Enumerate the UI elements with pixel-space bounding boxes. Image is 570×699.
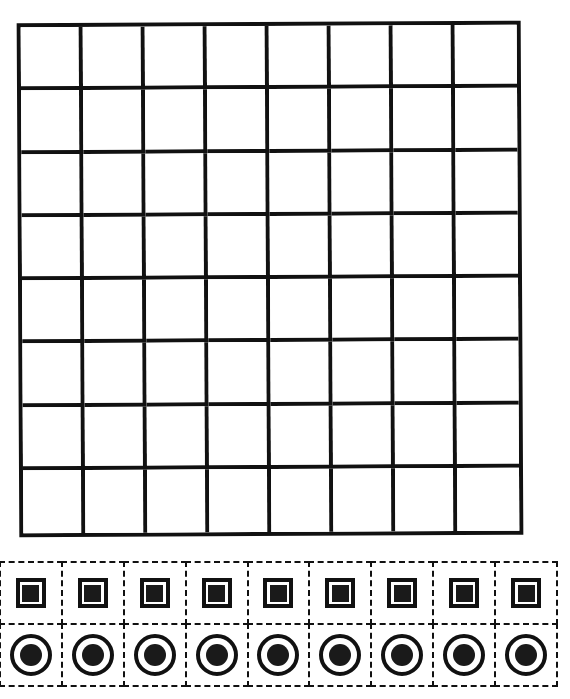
board-cell-r1-c3[interactable] [145, 26, 207, 90]
square-piece[interactable] [449, 578, 479, 608]
circle-piece-core-icon [144, 644, 166, 666]
board-cell-r2-c7[interactable] [393, 88, 455, 152]
board-cell-r3-c1[interactable] [21, 153, 83, 217]
board-cell-r5-c6[interactable] [332, 278, 394, 342]
board-cell-r3-c6[interactable] [331, 152, 393, 216]
tray-slot-circle-5 [247, 623, 311, 687]
circle-piece[interactable] [381, 634, 423, 676]
square-piece[interactable] [202, 578, 232, 608]
circle-piece-core-icon [391, 644, 413, 666]
tray-slot-square-7 [370, 561, 434, 625]
game-board [17, 21, 524, 538]
square-piece-core-icon [22, 585, 39, 602]
square-piece[interactable] [78, 578, 108, 608]
board-cell-r7-c5[interactable] [271, 405, 333, 469]
board-cell-r2-c1[interactable] [21, 90, 83, 154]
circle-piece-core-icon [267, 644, 289, 666]
board-cell-r7-c2[interactable] [85, 406, 147, 470]
board-cell-r5-c1[interactable] [22, 280, 84, 344]
board-cell-r1-c6[interactable] [331, 25, 393, 89]
circle-piece[interactable] [257, 634, 299, 676]
board-cell-r2-c4[interactable] [207, 89, 269, 153]
board-cell-r4-c6[interactable] [332, 215, 394, 279]
square-piece[interactable] [387, 578, 417, 608]
board-cell-r5-c3[interactable] [146, 279, 208, 343]
board-cell-r6-c5[interactable] [270, 342, 332, 406]
board-cell-r6-c2[interactable] [84, 343, 146, 407]
circle-piece[interactable] [505, 634, 547, 676]
board-cell-r1-c8[interactable] [455, 25, 517, 89]
circle-piece-core-icon [329, 644, 351, 666]
board-cell-r8-c4[interactable] [209, 469, 271, 533]
board-cell-r3-c5[interactable] [269, 152, 331, 216]
board-cell-r7-c4[interactable] [209, 405, 271, 469]
board-cell-r7-c7[interactable] [395, 405, 457, 469]
circle-piece-core-icon [453, 644, 475, 666]
board-cell-r2-c2[interactable] [83, 90, 145, 154]
board-cell-r5-c8[interactable] [456, 278, 518, 342]
tray-slot-circle-2 [61, 623, 125, 687]
square-piece[interactable] [140, 578, 170, 608]
board-cell-r1-c4[interactable] [207, 26, 269, 90]
tray-slot-circle-8 [432, 623, 496, 687]
board-cell-r4-c5[interactable] [270, 215, 332, 279]
board-cell-r8-c7[interactable] [395, 468, 457, 532]
board-cell-r4-c8[interactable] [456, 214, 518, 278]
square-piece[interactable] [263, 578, 293, 608]
board-cell-r2-c8[interactable] [455, 88, 517, 152]
board-cell-r6-c1[interactable] [22, 343, 84, 407]
board-cell-r6-c6[interactable] [332, 342, 394, 406]
circle-piece[interactable] [319, 634, 361, 676]
board-cell-r4-c4[interactable] [208, 216, 270, 280]
board-cell-r5-c4[interactable] [208, 279, 270, 343]
board-cell-r2-c6[interactable] [331, 89, 393, 153]
board-cell-r7-c1[interactable] [23, 406, 85, 470]
square-piece-core-icon [270, 585, 287, 602]
board-cell-r2-c3[interactable] [145, 90, 207, 154]
board-cell-r1-c7[interactable] [393, 25, 455, 89]
circle-piece[interactable] [72, 634, 114, 676]
board-cell-r3-c2[interactable] [83, 153, 145, 217]
board-cell-r4-c7[interactable] [394, 215, 456, 279]
board-cell-r3-c3[interactable] [145, 153, 207, 217]
board-cell-r4-c2[interactable] [84, 216, 146, 280]
board-cell-r6-c7[interactable] [394, 341, 456, 405]
square-piece-core-icon [84, 585, 101, 602]
tray-slot-square-6 [308, 561, 372, 625]
circle-piece[interactable] [134, 634, 176, 676]
square-piece-core-icon [518, 585, 535, 602]
board-cell-r5-c2[interactable] [84, 280, 146, 344]
board-cell-r6-c3[interactable] [146, 343, 208, 407]
circle-piece-core-icon [20, 644, 42, 666]
board-cell-r1-c1[interactable] [21, 27, 83, 91]
square-piece[interactable] [16, 578, 46, 608]
board-cell-r1-c2[interactable] [83, 27, 145, 91]
board-cell-r8-c8[interactable] [457, 467, 519, 531]
square-piece[interactable] [511, 578, 541, 608]
board-cell-r8-c3[interactable] [147, 469, 209, 533]
board-cell-r1-c5[interactable] [269, 26, 331, 90]
circle-piece[interactable] [10, 634, 52, 676]
square-piece[interactable] [325, 578, 355, 608]
board-cell-r8-c1[interactable] [23, 470, 85, 534]
circle-piece[interactable] [196, 634, 238, 676]
board-cell-r6-c8[interactable] [456, 341, 518, 405]
board-cell-r2-c5[interactable] [269, 89, 331, 153]
board-cell-r3-c4[interactable] [207, 153, 269, 217]
board-cell-r8-c6[interactable] [333, 468, 395, 532]
board-cell-r6-c4[interactable] [208, 342, 270, 406]
board-cell-r3-c7[interactable] [393, 152, 455, 216]
board-cell-r7-c3[interactable] [147, 406, 209, 470]
board-cell-r3-c8[interactable] [455, 151, 517, 215]
circle-piece[interactable] [443, 634, 485, 676]
board-cell-r4-c1[interactable] [22, 217, 84, 281]
tray-slot-square-5 [247, 561, 311, 625]
board-cell-r5-c5[interactable] [270, 279, 332, 343]
board-cell-r7-c6[interactable] [333, 405, 395, 469]
board-cell-r4-c3[interactable] [146, 216, 208, 280]
board-cell-r8-c2[interactable] [85, 469, 147, 533]
board-cell-r8-c5[interactable] [271, 468, 333, 532]
tray-slot-circle-3 [123, 623, 187, 687]
board-cell-r7-c8[interactable] [457, 404, 519, 468]
board-cell-r5-c7[interactable] [394, 278, 456, 342]
